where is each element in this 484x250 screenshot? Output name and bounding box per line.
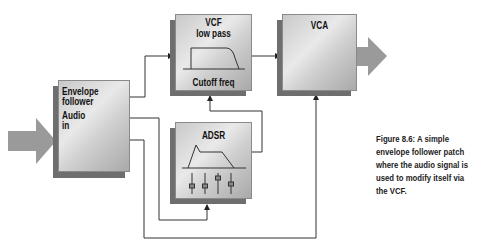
lowpass-response-icon [183, 40, 245, 72]
output-arrow-icon [357, 37, 387, 76]
vcf-title: VCF [182, 17, 245, 28]
figure-caption: Figure 8.6: A simple envelope follower p… [376, 133, 472, 198]
cutoff-freq-label: Cutoff freq [182, 77, 245, 88]
vcf-subtitle: low pass [182, 28, 245, 39]
four-sliders-icon [190, 173, 234, 194]
input-arrow-icon [8, 118, 56, 164]
vca-title: VCA [289, 20, 351, 31]
wire-audio-out-to-vcf [130, 56, 173, 97]
adsr-envelope-icon [182, 140, 246, 196]
patch-diagram: Envelope follower Audio in Audio out Gat… [0, 0, 484, 250]
audio-in-label-2: in [62, 120, 69, 131]
envelope-follower-title-2: follower [62, 96, 93, 107]
